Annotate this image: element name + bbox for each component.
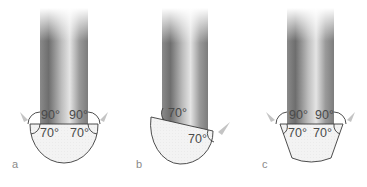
- angle-arc-upper-left: [276, 112, 287, 124]
- angle-arc-upper-right: [334, 112, 346, 124]
- angle-label-upper-left: 90°: [289, 108, 308, 122]
- angle-arc-upper-right: [88, 112, 100, 124]
- arrow-left-icon: [20, 112, 28, 122]
- angle-label-upper-right: 90°: [69, 108, 88, 122]
- angle-label-lower-right: 70°: [70, 126, 89, 140]
- panel-c: 90° 90° 70° 70° c: [262, 8, 355, 170]
- panel-label-a: a: [12, 158, 19, 170]
- angle-label-upper-right: 90°: [315, 108, 334, 122]
- panel-a: 90° 90° 70° 70° a: [12, 8, 108, 170]
- angle-label-upper-left: 70°: [168, 106, 187, 120]
- contact-angle-diagram: 90° 90° 70° 70° a 70° 70° b 90° 90° 7: [0, 0, 367, 187]
- panel-label-c: c: [262, 158, 268, 170]
- panel-b: 70° 70° b: [136, 8, 230, 170]
- angle-label-lower-right: 70°: [188, 132, 207, 146]
- angle-arc-upper-left: [28, 112, 40, 124]
- arrow-right-icon: [218, 122, 230, 135]
- arrow-left-icon: [266, 112, 275, 122]
- panel-label-b: b: [136, 158, 142, 170]
- arrow-right-icon: [100, 112, 108, 122]
- arrow-right-icon: [347, 112, 355, 122]
- angle-label-upper-left: 90°: [41, 108, 60, 122]
- angle-label-lower-left: 70°: [40, 126, 59, 140]
- angle-label-lower-right: 70°: [313, 126, 332, 140]
- angle-label-lower-left: 70°: [288, 126, 307, 140]
